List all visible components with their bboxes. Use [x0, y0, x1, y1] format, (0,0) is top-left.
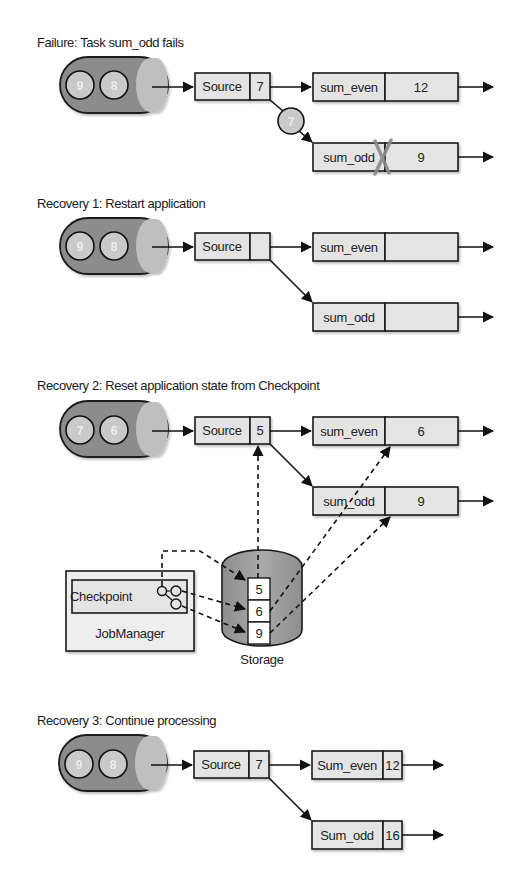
panel-failure: Failure: Task sum_odd fails 9 8 Source 7… [37, 35, 493, 174]
sum-even-value: 6 [417, 424, 424, 439]
queue-record-value: 8 [111, 79, 118, 93]
source-label: Source [202, 79, 241, 94]
storage-cell-value: 9 [255, 626, 262, 641]
sum-odd-label: Sum_odd [320, 828, 374, 843]
queue-record-value: 9 [76, 758, 83, 772]
storage: 5 6 9 Storage [222, 550, 302, 667]
panel-recovery-3: Recovery 3: Continue processing 9 8 Sour… [37, 713, 443, 849]
source-value: 7 [255, 757, 262, 772]
in-flight-record-value: 7 [288, 115, 295, 129]
sum-even-label: Sum_even [317, 758, 377, 773]
panel-recovery-2: Recovery 2: Reset application state from… [37, 378, 493, 667]
storage-label: Storage [240, 652, 284, 667]
panel-title: Recovery 1: Restart application [37, 196, 205, 211]
queue-record-value: 9 [77, 240, 84, 254]
panel-title: Recovery 2: Reset application state from… [37, 378, 320, 393]
source-value: 7 [256, 79, 263, 94]
input-queue: 7 6 [60, 401, 168, 457]
arrow-icon [269, 778, 311, 820]
input-queue: 9 8 [60, 57, 168, 113]
sum-even-label: sum_even [320, 424, 378, 439]
source-label: Source [202, 239, 241, 254]
panel-title: Recovery 3: Continue processing [37, 713, 216, 728]
queue-record-value: 8 [111, 240, 118, 254]
sum-odd-label: sum_odd [323, 494, 374, 509]
jobmanager-label: JobManager [95, 626, 165, 641]
queue-record-value: 7 [77, 424, 84, 438]
sum-odd-value: 9 [417, 150, 424, 165]
sum-odd-label: sum_odd [323, 310, 374, 325]
checkpoint-recovery-diagram: Failure: Task sum_odd fails 9 8 Source 7… [0, 0, 526, 881]
sum-even-value: 12 [414, 80, 428, 95]
connector-line [270, 100, 283, 111]
sum-odd-label: sum_odd [323, 150, 374, 165]
sum-even-label: sum_even [320, 240, 378, 255]
queue-record-value: 8 [110, 758, 117, 772]
checkpoint-label: Checkpoint [70, 589, 133, 604]
jobmanager: Checkpoint JobManager [66, 571, 194, 651]
queue-record-value: 9 [77, 79, 84, 93]
source-value: 5 [256, 423, 263, 438]
sum-even-label: sum_even [320, 80, 378, 95]
storage-cell-value: 5 [255, 582, 262, 597]
sum-odd-value: 9 [417, 494, 424, 509]
arrow-icon [299, 131, 312, 142]
sum-even-value: 12 [385, 758, 399, 773]
panel-title: Failure: Task sum_odd fails [37, 35, 184, 50]
panel-recovery-1: Recovery 1: Restart application 9 8 Sour… [37, 196, 493, 331]
input-queue: 9 8 [60, 218, 168, 274]
arrow-icon [270, 444, 312, 486]
source-label: Source [202, 423, 241, 438]
queue-record-value: 6 [111, 424, 118, 438]
storage-cell-value: 6 [255, 604, 262, 619]
input-queue: 9 8 [59, 735, 167, 791]
arrow-icon [270, 260, 312, 302]
sum-odd-value: 16 [385, 828, 399, 843]
source-label: Source [201, 757, 240, 772]
